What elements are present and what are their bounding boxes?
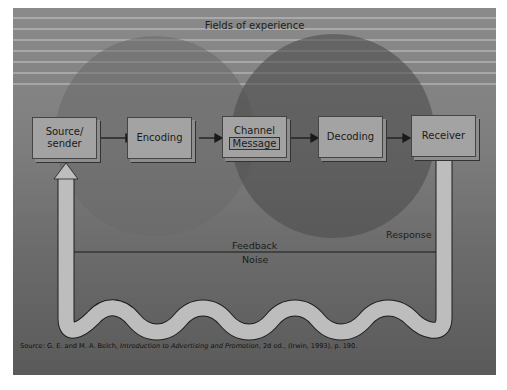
decoding-box: Decoding <box>318 116 383 158</box>
caption-suffix: , 2d ed., (Irwin, 1993), p. 190. <box>259 342 358 350</box>
caption-prefix: Source: G. E. and M. A. Belch, <box>20 342 120 350</box>
diagram-panel: Fields of experience Source/ sender Enco… <box>13 8 496 375</box>
receiver-label: Receiver <box>422 130 465 142</box>
noise-label: Noise <box>242 254 268 265</box>
source-label-line2: sender <box>47 138 81 150</box>
feedback-label: Feedback <box>232 240 277 251</box>
source-caption: Source: G. E. and M. A. Belch, Introduct… <box>20 342 357 350</box>
response-label: Response <box>386 229 432 240</box>
source-label-line1: Source/ <box>46 126 84 138</box>
fields-of-experience-title: Fields of experience <box>13 20 496 31</box>
encoding-label: Encoding <box>136 132 182 144</box>
channel-label: Channel <box>234 125 275 137</box>
caption-book-title: Introduction to Advertising and Promotio… <box>120 342 259 350</box>
channel-box: Channel Message <box>222 116 287 158</box>
source-sender-box: Source/ sender <box>32 117 97 159</box>
encoding-box: Encoding <box>127 117 192 159</box>
diagram-graphics <box>13 8 496 375</box>
receiver-box: Receiver <box>411 115 476 157</box>
message-label: Message <box>229 137 281 150</box>
decoding-label: Decoding <box>327 131 374 143</box>
